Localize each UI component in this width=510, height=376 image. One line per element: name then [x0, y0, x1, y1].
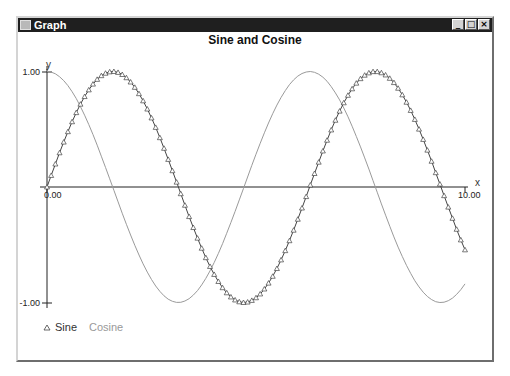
triangle-marker-icon	[44, 325, 50, 330]
data-point-marker	[182, 203, 187, 208]
data-point-marker	[429, 159, 434, 164]
x-tick-label-max: 10.00	[458, 190, 481, 200]
data-point-marker	[458, 237, 463, 242]
data-point-marker	[166, 157, 171, 162]
data-point-marker	[249, 298, 254, 303]
data-point-marker	[299, 206, 304, 211]
data-point-marker	[65, 129, 70, 134]
data-point-marker	[312, 171, 317, 176]
chart-title: Sine and Cosine	[208, 33, 302, 47]
data-point-marker	[404, 100, 409, 105]
data-point-marker	[333, 118, 338, 123]
data-point-marker	[279, 257, 284, 262]
data-point-marker	[82, 94, 87, 99]
data-point-marker	[216, 279, 221, 284]
data-point-marker	[170, 168, 175, 173]
x-axis-label: x	[475, 177, 480, 188]
x-tick-label-min: 0.00	[44, 190, 62, 200]
data-point-marker	[291, 228, 296, 233]
data-point-marker	[446, 205, 451, 210]
data-point-marker	[325, 138, 330, 143]
data-point-marker	[74, 110, 79, 115]
data-point-marker	[437, 182, 442, 187]
data-point-marker	[442, 193, 447, 198]
data-point-marker	[408, 108, 413, 113]
data-point-marker	[49, 173, 54, 178]
data-point-marker	[417, 127, 422, 132]
data-point-marker	[195, 236, 200, 241]
y-tick-label-min: -1.00	[19, 298, 40, 308]
chart-canvas: Sine and Cosine y x 1.00 -1.00 0.00 10.0…	[0, 0, 510, 376]
data-point-marker	[308, 183, 313, 188]
data-point-marker	[141, 98, 146, 103]
data-point-marker	[316, 160, 321, 165]
data-point-marker	[162, 146, 167, 151]
data-point-marker	[454, 227, 459, 232]
data-point-marker	[53, 162, 58, 167]
data-point-marker	[187, 214, 192, 219]
data-point-marker	[421, 137, 426, 142]
data-point-marker	[341, 100, 346, 105]
data-point-marker	[274, 266, 279, 271]
data-point-marker	[425, 148, 430, 153]
data-point-marker	[191, 225, 196, 230]
legend-cosine-label: Cosine	[89, 321, 123, 333]
data-point-marker	[329, 127, 334, 131]
legend-sine-label: Sine	[55, 321, 77, 333]
data-point-marker	[157, 135, 162, 140]
data-point-marker	[212, 272, 217, 277]
data-point-marker	[304, 194, 309, 199]
legend: Sine Cosine	[44, 321, 123, 333]
data-point-marker	[433, 170, 438, 175]
data-point-marker	[320, 148, 325, 153]
data-point-marker	[283, 248, 288, 253]
data-point-marker	[400, 92, 405, 97]
data-point-marker	[337, 109, 342, 114]
data-point-marker	[149, 115, 154, 120]
data-point-marker	[287, 238, 292, 243]
data-point-marker	[199, 246, 204, 251]
data-point-marker	[70, 119, 75, 124]
data-point-marker	[295, 217, 300, 222]
data-point-marker	[153, 125, 158, 129]
data-point-marker	[412, 117, 417, 122]
data-point-marker	[174, 180, 179, 185]
data-point-marker	[57, 150, 62, 155]
y-tick-label-max: 1.00	[22, 67, 40, 77]
data-point-marker	[450, 216, 455, 221]
data-point-marker	[203, 255, 208, 260]
data-point-marker	[266, 281, 271, 286]
y-axis-label: y	[46, 59, 51, 70]
data-point-marker	[178, 191, 183, 196]
data-point-marker	[145, 107, 150, 112]
data-point-marker	[61, 140, 66, 145]
data-point-marker	[463, 247, 468, 252]
data-point-marker	[270, 274, 275, 279]
data-point-marker	[208, 264, 213, 269]
